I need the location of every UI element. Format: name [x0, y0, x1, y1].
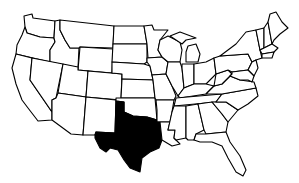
state-colorado[interactable] [86, 71, 122, 100]
state-montana[interactable] [60, 20, 114, 48]
us-map: United States map with Texas highlighted [0, 0, 299, 183]
state-new-mexico[interactable] [83, 97, 116, 135]
us-map-svg [0, 0, 299, 183]
state-kansas[interactable] [121, 79, 155, 98]
state-arizona[interactable] [52, 93, 86, 135]
state-maine[interactable] [268, 12, 288, 44]
state-north-dakota[interactable] [113, 26, 147, 44]
state-south-dakota[interactable] [112, 44, 147, 64]
state-wyoming[interactable] [78, 47, 113, 73]
state-florida[interactable] [194, 132, 246, 176]
